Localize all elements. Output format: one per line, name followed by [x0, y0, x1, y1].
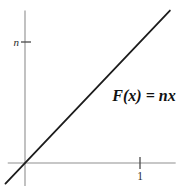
function-plot-figure: n 1 F(x) = nx [0, 0, 185, 192]
plot-svg: n 1 F(x) = nx [0, 0, 185, 192]
x-tick-label-1: 1 [137, 170, 143, 182]
function-annotation: F(x) = nx [111, 87, 175, 105]
y-tick-label-n: n [14, 36, 20, 48]
